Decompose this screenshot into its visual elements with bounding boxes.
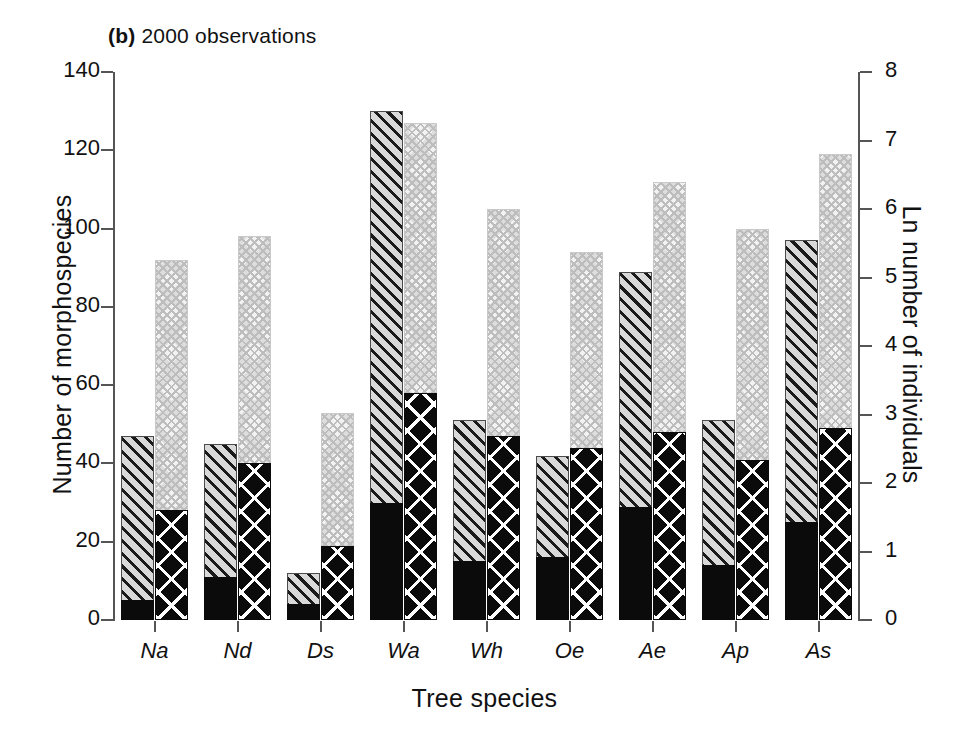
bar-group-Na[interactable]	[121, 71, 188, 620]
y-tick-right-7	[860, 140, 872, 142]
bar-morphospecies-Wa[interactable]	[370, 111, 403, 620]
y-ticklabel-right-2: 2	[885, 468, 969, 494]
bar-morphospecies-Wh[interactable]	[453, 420, 486, 620]
bar-morphospecies-Ds[interactable]	[287, 573, 320, 620]
bar-segment-singletons-Ds	[287, 604, 320, 620]
y-ticklabel-left-140: 140	[0, 57, 100, 83]
x-tick-As	[818, 621, 820, 632]
bar-individuals-Na[interactable]	[155, 260, 188, 620]
y-tick-right-4	[860, 345, 872, 347]
bar-individuals-Nd[interactable]	[238, 236, 271, 620]
y-tick-right-1	[860, 551, 872, 553]
panel-title: (b) 2000 observations	[108, 24, 317, 48]
bar-segment-ln-subset-Na	[155, 510, 188, 620]
y-ticklabel-left-60: 60	[0, 370, 100, 396]
x-tick-Ap	[735, 621, 737, 632]
bar-group-Oe[interactable]	[536, 71, 603, 620]
bar-segment-ln-subset-As	[819, 428, 852, 620]
x-ticklabel-Wa: Wa	[364, 638, 444, 664]
y-ticklabel-right-0: 0	[885, 605, 969, 631]
bar-individuals-Ae[interactable]	[653, 182, 686, 620]
bar-morphospecies-As[interactable]	[785, 240, 818, 620]
y-ticklabel-right-8: 8	[885, 57, 969, 83]
y-ticklabel-right-5: 5	[885, 263, 969, 289]
y-tick-left-0	[101, 619, 113, 621]
panel-label: (b)	[108, 24, 135, 47]
bar-group-Nd[interactable]	[204, 71, 271, 620]
bar-individuals-Oe[interactable]	[570, 252, 603, 620]
bar-morphospecies-Ae[interactable]	[619, 272, 652, 620]
x-ticklabel-Ae: Ae	[613, 638, 693, 664]
y-tick-right-2	[860, 482, 872, 484]
bar-segment-singletons-Nd	[204, 577, 237, 620]
y-ticklabel-right-4: 4	[885, 331, 969, 357]
x-ticklabel-Ap: Ap	[696, 638, 776, 664]
bar-group-Ae[interactable]	[619, 71, 686, 620]
bar-group-Ap[interactable]	[702, 71, 769, 620]
bar-segment-ln-subset-Ds	[321, 546, 354, 620]
x-ticklabel-As: As	[779, 638, 859, 664]
bar-segment-ln-subset-Wa	[404, 393, 437, 620]
bar-morphospecies-Oe[interactable]	[536, 456, 569, 620]
y-tick-left-60	[101, 384, 113, 386]
y-tick-left-120	[101, 149, 113, 151]
y-ticklabel-left-20: 20	[0, 527, 100, 553]
y-axis-left-line	[113, 72, 115, 621]
bar-segment-singletons-Na	[121, 600, 154, 620]
y-tick-right-8	[860, 71, 872, 73]
bar-segment-singletons-Wa	[370, 503, 403, 620]
x-ticklabel-Oe: Oe	[530, 638, 610, 664]
y-tick-left-140	[101, 71, 113, 73]
y-ticklabel-right-7: 7	[885, 126, 969, 152]
bar-segment-ln-subset-Ae	[653, 432, 686, 620]
x-tick-Wa	[403, 621, 405, 632]
y-tick-left-100	[101, 228, 113, 230]
x-tick-Wh	[486, 621, 488, 632]
bar-segment-singletons-Wh	[453, 561, 486, 620]
bar-segment-singletons-Ae	[619, 507, 652, 621]
bar-segment-ln-subset-Nd	[238, 463, 271, 620]
panel-title-text: 2000 observations	[141, 24, 316, 47]
y-tick-left-40	[101, 462, 113, 464]
bar-group-Wa[interactable]	[370, 71, 437, 620]
x-tick-Ae	[652, 621, 654, 632]
bar-individuals-Ds[interactable]	[321, 413, 354, 620]
y-tick-left-80	[101, 306, 113, 308]
y-tick-left-20	[101, 541, 113, 543]
x-tick-Nd	[237, 621, 239, 632]
x-ticklabel-Wh: Wh	[447, 638, 527, 664]
bar-segment-total-Na	[121, 436, 154, 620]
bar-individuals-Wh[interactable]	[487, 209, 520, 620]
bar-morphospecies-Na[interactable]	[121, 436, 154, 620]
bar-segment-singletons-As	[785, 522, 818, 620]
bar-individuals-Ap[interactable]	[736, 229, 769, 620]
bar-morphospecies-Ap[interactable]	[702, 420, 735, 620]
bar-segment-ln-subset-Oe	[570, 448, 603, 620]
x-tick-Na	[154, 621, 156, 632]
y-tick-right-5	[860, 277, 872, 279]
y-ticklabel-right-6: 6	[885, 194, 969, 220]
y-ticklabel-left-100: 100	[0, 214, 100, 240]
x-ticklabel-Na: Na	[115, 638, 195, 664]
bar-group-As[interactable]	[785, 71, 852, 620]
plot-area: 020406080100120140 012345678 NaNdDsWaWhO…	[113, 72, 860, 620]
bar-individuals-As[interactable]	[819, 154, 852, 620]
figure-panel-b: (b) 2000 observations Number of morphosp…	[0, 0, 969, 733]
bar-morphospecies-Nd[interactable]	[204, 444, 237, 620]
y-tick-right-0	[860, 619, 872, 621]
bar-segment-ln-subset-Wh	[487, 436, 520, 620]
y-ticklabel-left-40: 40	[0, 448, 100, 474]
x-tick-Oe	[569, 621, 571, 632]
bar-individuals-Wa[interactable]	[404, 123, 437, 620]
y-ticklabel-right-3: 3	[885, 400, 969, 426]
y-ticklabel-left-80: 80	[0, 292, 100, 318]
bar-group-Wh[interactable]	[453, 71, 520, 620]
bar-group-Ds[interactable]	[287, 71, 354, 620]
y-ticklabel-left-120: 120	[0, 135, 100, 161]
bar-segment-ln-subset-Ap	[736, 460, 769, 620]
y-ticklabel-right-1: 1	[885, 537, 969, 563]
x-ticklabel-Nd: Nd	[198, 638, 278, 664]
x-axis-title: Tree species	[0, 684, 969, 713]
y-tick-right-6	[860, 208, 872, 210]
x-ticklabel-Ds: Ds	[281, 638, 361, 664]
